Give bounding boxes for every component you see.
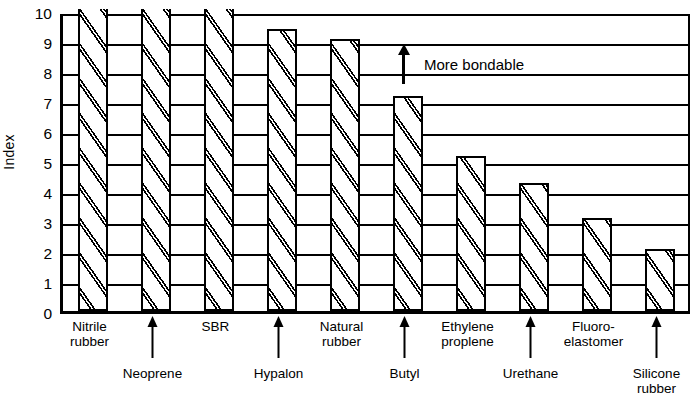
y-tick-label: 2 (18, 246, 52, 262)
x-axis-label: Natural rubber (298, 319, 386, 349)
y-tick-label: 8 (18, 66, 52, 82)
x-axis-label: Silicone rubber (613, 366, 694, 396)
hatch-fill (458, 158, 484, 309)
x-axis-label: Hypalon (235, 366, 323, 381)
y-tick-label: 5 (18, 156, 52, 172)
x-axis-label: Neoprene (109, 366, 197, 381)
up-arrow-icon (398, 44, 410, 84)
hatch-fill (80, 9, 106, 309)
x-axis-label: Fluoro- elastomer (550, 319, 638, 349)
hatch-fill (647, 251, 673, 309)
y-tick-label: 3 (18, 216, 52, 232)
bar (456, 156, 486, 311)
bar (645, 249, 675, 311)
label-connector-arrow-icon (147, 316, 158, 362)
x-axis-label: Urethane (487, 366, 575, 381)
label-connector-arrow-icon (525, 316, 536, 362)
hatch-fill (584, 220, 610, 310)
hatch-fill (143, 9, 169, 309)
bar (204, 9, 234, 311)
y-tick-label: 6 (18, 126, 52, 142)
y-tick-label: 9 (18, 36, 52, 52)
bar-chart-figure: Index 109876543210 More bondable Nitrile… (0, 0, 694, 407)
bar (141, 9, 171, 311)
bar (519, 183, 549, 311)
x-axis-labels: Nitrile rubberNeopreneSBRHypalonNatural … (60, 316, 690, 407)
label-connector-arrow-icon (399, 316, 410, 362)
bar (330, 39, 360, 311)
y-tick-label: 1 (18, 276, 52, 292)
bar (582, 218, 612, 312)
bar (393, 96, 423, 311)
hatch-fill (332, 41, 358, 309)
bar (78, 9, 108, 311)
x-axis-label: Ethylene proplene (424, 319, 512, 349)
label-connector-arrow-icon (651, 316, 662, 362)
x-axis-label: Butyl (361, 366, 449, 381)
hatch-fill (521, 185, 547, 309)
more-bondable-annotation: More bondable (398, 44, 524, 84)
hatch-fill (269, 31, 295, 310)
y-tick-label: 4 (18, 186, 52, 202)
y-tick-label: 10 (18, 6, 52, 22)
plot-right-border (688, 14, 690, 311)
plot-area (60, 14, 690, 314)
bar (267, 29, 297, 312)
x-axis-label: SBR (172, 319, 260, 334)
x-axis-label: Nitrile rubber (46, 319, 134, 349)
y-tick-label: 7 (18, 96, 52, 112)
hatch-fill (395, 98, 421, 309)
label-connector-arrow-icon (273, 316, 284, 362)
hatch-fill (206, 9, 232, 309)
more-bondable-label: More bondable (424, 56, 524, 73)
